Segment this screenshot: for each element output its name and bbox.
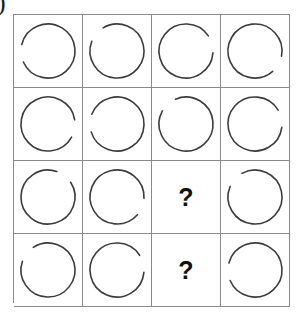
broken-ring-icon bbox=[14, 234, 82, 306]
corner-glyph: ) bbox=[0, 0, 11, 15]
arc-stroke bbox=[229, 243, 282, 297]
broken-ring-icon bbox=[152, 88, 220, 160]
broken-ring-icon bbox=[221, 15, 289, 87]
arc-stroke bbox=[228, 97, 282, 151]
arc-stroke bbox=[91, 97, 144, 151]
matrix-cell-r3-c2 bbox=[83, 161, 152, 234]
matrix-cell-r4-c1 bbox=[14, 234, 83, 307]
arc-stroke bbox=[90, 24, 144, 78]
broken-ring-icon bbox=[14, 88, 82, 160]
matrix-cell-r1-c4 bbox=[221, 15, 290, 88]
matrix-cell-r2-c3 bbox=[152, 88, 221, 161]
arc-stroke bbox=[90, 170, 144, 224]
matrix-cell-r3-c4 bbox=[221, 161, 290, 234]
broken-ring-icon bbox=[14, 161, 82, 233]
arc-stroke bbox=[228, 170, 282, 224]
matrix-cell-r1-c3 bbox=[152, 15, 221, 88]
broken-ring-icon bbox=[14, 15, 82, 87]
arc-stroke bbox=[22, 24, 75, 78]
arc-stroke bbox=[159, 97, 213, 151]
matrix-cell-r4-c3: ? bbox=[152, 234, 221, 307]
broken-ring-icon bbox=[83, 15, 151, 87]
matrix-cell-r4-c4 bbox=[221, 234, 290, 307]
broken-ring-icon bbox=[152, 15, 220, 87]
matrix-cell-r3-c3: ? bbox=[152, 161, 221, 234]
puzzle-grid: ?? bbox=[13, 14, 290, 303]
arc-stroke bbox=[21, 170, 75, 224]
arc-stroke bbox=[228, 24, 282, 78]
broken-ring-icon bbox=[83, 161, 151, 233]
broken-ring-icon bbox=[221, 88, 289, 160]
arc-stroke bbox=[21, 97, 75, 151]
matrix-cell-r2-c4 bbox=[221, 88, 290, 161]
broken-ring-icon bbox=[221, 234, 289, 306]
broken-ring-icon bbox=[83, 88, 151, 160]
matrix-cell-r3-c1 bbox=[14, 161, 83, 234]
matrix-cell-r4-c2 bbox=[83, 234, 152, 307]
arc-stroke bbox=[21, 243, 75, 297]
matrix-cell-r1-c2 bbox=[83, 15, 152, 88]
question-mark: ? bbox=[178, 185, 193, 210]
matrix-cell-r2-c1 bbox=[14, 88, 83, 161]
matrix-cell-r1-c1 bbox=[14, 15, 83, 88]
arc-stroke bbox=[159, 24, 213, 78]
matrix-cell-r2-c2 bbox=[83, 88, 152, 161]
arc-stroke bbox=[90, 243, 144, 297]
broken-ring-icon bbox=[83, 234, 151, 306]
question-mark: ? bbox=[178, 258, 193, 283]
broken-ring-icon bbox=[221, 161, 289, 233]
